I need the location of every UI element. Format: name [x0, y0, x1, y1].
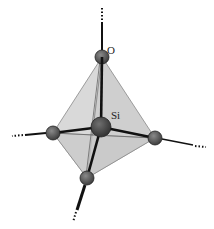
bond-bottom-external	[77, 185, 85, 210]
atom-oxygen-right	[148, 131, 162, 145]
bond-left-external	[25, 133, 46, 135]
bond-right-external	[162, 139, 193, 145]
bond-left-dots	[12, 135, 23, 136]
silica-tetrahedron-diagram: O Si	[0, 0, 214, 229]
bond-bottom-dots	[73, 212, 76, 222]
atom-oxygen-bottom	[80, 171, 94, 185]
tetrahedron-face-bottom	[53, 133, 155, 178]
atom-oxygen-left	[46, 126, 60, 140]
bond-right-dots	[195, 146, 206, 147]
label-oxygen: O	[107, 44, 115, 56]
label-silicon: Si	[111, 109, 120, 121]
atom-silicon-center	[91, 117, 111, 137]
bond-si-top	[101, 57, 102, 127]
